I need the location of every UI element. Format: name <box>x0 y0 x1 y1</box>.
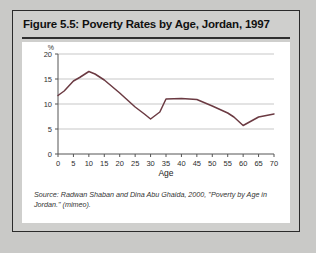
y-tick-label: 15 <box>44 75 52 84</box>
y-tick-label: 10 <box>44 100 52 109</box>
x-tick-label: 0 <box>56 159 60 168</box>
x-tick-label: 5 <box>71 159 75 168</box>
figure-page: Figure 5.5: Poverty Rates by Age, Jordan… <box>0 0 316 253</box>
source-note: Source: Radwan Shaban and Dina Abu Ghaid… <box>34 190 278 210</box>
y-tick-labels: 05101520 <box>44 50 52 159</box>
title-divider <box>22 37 290 39</box>
x-tick-label: 55 <box>224 159 232 168</box>
x-tick-label: 25 <box>131 159 139 168</box>
x-tick-labels: 0510152025303540455055606570 <box>56 159 278 168</box>
figure-card: Figure 5.5: Poverty Rates by Age, Jordan… <box>12 10 300 232</box>
y-axis-unit-label: % <box>48 44 54 51</box>
poverty-rate-line-chart: 05101520 0510152025303540455055606570 % … <box>22 42 290 182</box>
x-tick-label: 65 <box>254 159 262 168</box>
gridlines <box>58 54 274 129</box>
x-tick-label: 10 <box>85 159 93 168</box>
chart-panel: 05101520 0510152025303540455055606570 % … <box>22 42 290 223</box>
x-tick-label: 35 <box>162 159 170 168</box>
x-tick-label: 50 <box>208 159 216 168</box>
x-tick-label: 60 <box>239 159 247 168</box>
x-tick-label: 15 <box>100 159 108 168</box>
poverty-rate-series-line <box>58 72 274 126</box>
x-tick-label: 20 <box>116 159 124 168</box>
y-tick-label: 20 <box>44 50 52 59</box>
plot-area: 05101520 0510152025303540455055606570 % … <box>22 42 290 182</box>
x-axis-title: Age <box>158 168 173 178</box>
x-tick-label: 45 <box>193 159 201 168</box>
y-tick-label: 0 <box>48 150 52 159</box>
y-tick-label: 5 <box>48 125 52 134</box>
figure-title: Figure 5.5: Poverty Rates by Age, Jordan… <box>23 18 291 30</box>
x-tick-label: 40 <box>177 159 185 168</box>
x-tick-label: 30 <box>146 159 154 168</box>
x-tick-label: 70 <box>270 159 278 168</box>
